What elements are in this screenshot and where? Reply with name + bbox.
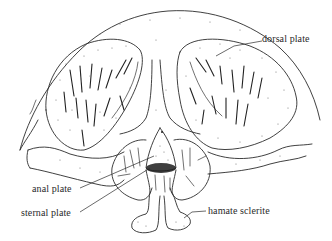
ventral-band-upper-right — [208, 144, 312, 159]
leader-anal-plate — [80, 156, 154, 188]
label-anal-plate: anal plate — [32, 184, 72, 194]
left-plate-setae — [64, 58, 132, 146]
label-hamate-sclerite: hamate sclerite — [208, 206, 270, 216]
right-plate-setae — [190, 58, 262, 126]
sternal-plate-dark — [146, 163, 176, 173]
ventral-band-lower-right — [208, 156, 306, 174]
body-outline — [20, 11, 320, 150]
sternal-plate-lower — [146, 170, 176, 192]
ventral-band-upper — [28, 147, 124, 158]
inner-plate-edge-right — [190, 62, 222, 116]
leader-sternal-plate — [80, 168, 150, 212]
medial-left-line — [120, 60, 152, 134]
stipple-dots — [55, 17, 288, 226]
label-sternal-plate: sternal plate — [21, 208, 71, 218]
medial-right-line — [160, 60, 200, 134]
right-hamate-sclerite — [164, 192, 190, 230]
anatomical-figure: dorsal plate anal plate sternal plate ha… — [0, 0, 332, 241]
ventral-band-left-tip — [27, 150, 30, 168]
label-dorsal-plate: dorsal plate — [262, 34, 310, 44]
left-dorsal-plate — [46, 39, 143, 150]
body-left-notch — [30, 100, 36, 114]
leader-hamate-sclerite — [184, 211, 206, 218]
